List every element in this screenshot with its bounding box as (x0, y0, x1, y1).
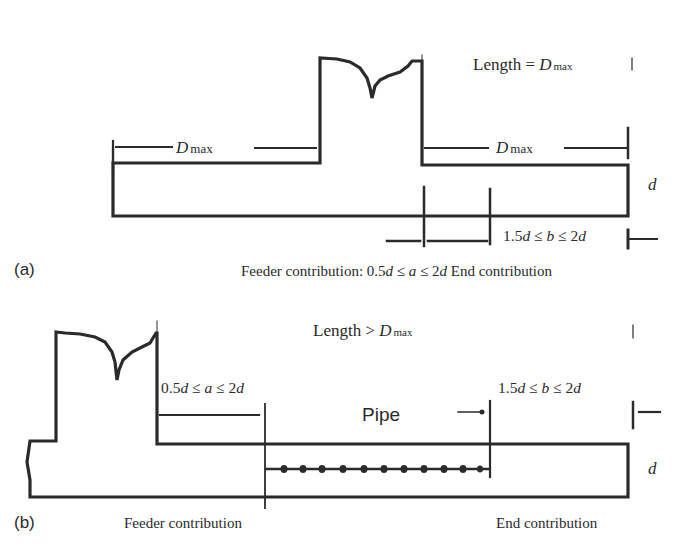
dmax-right-label: Dmax (495, 138, 533, 157)
casting-outline-b (27, 332, 628, 497)
length-greater-dmax-label: Length > Dmax (313, 321, 413, 340)
pipe-label: Pipe (362, 404, 400, 425)
feeder-contribution-caption: Feeder contribution (124, 515, 242, 531)
panel-a: Length = Dmax Dmax Dmax d 1.5d ≤ b ≤ 2d (14, 55, 657, 279)
end-contribution-caption: End contribution (496, 515, 598, 531)
dmax-left-label: Dmax (175, 138, 213, 157)
panel-b-label: (b) (14, 513, 35, 532)
pipe-arrow-head (480, 410, 485, 415)
panel-a-label: (a) (14, 260, 35, 279)
feeding-distance-diagram: Length = Dmax Dmax Dmax d 1.5d ≤ b ≤ 2d (0, 0, 680, 546)
thickness-label-b: d (648, 459, 657, 478)
a-range-label-b: 0.5d ≤ a ≤ 2d (161, 379, 244, 396)
length-equals-dmax-label: Length = Dmax (473, 55, 573, 74)
panel-b: Length > Dmax 0.5d ≤ a ≤ 2d Pipe 1.5d ≤ … (14, 321, 660, 532)
panel-a-caption: Feeder contribution: 0.5d ≤ a ≤ 2d End c… (241, 263, 553, 279)
b-range-label-a: 1.5d ≤ b ≤ 2d (503, 227, 586, 244)
b-range-label-b: 1.5d ≤ b ≤ 2d (498, 379, 581, 396)
casting-outline-a (113, 58, 628, 216)
thickness-label-a: d (648, 175, 657, 194)
